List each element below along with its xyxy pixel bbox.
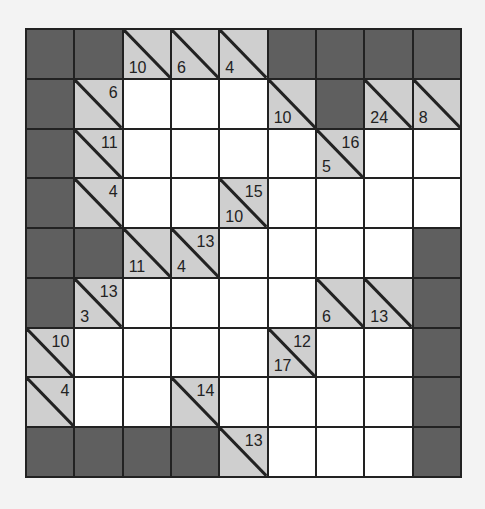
down-clue: 4 bbox=[225, 60, 234, 76]
down-clue: 5 bbox=[322, 159, 331, 175]
blocked-cell bbox=[27, 80, 73, 128]
down-clue: 24 bbox=[370, 110, 388, 126]
down-clue: 13 bbox=[370, 309, 388, 325]
entry-cell[interactable] bbox=[269, 428, 315, 476]
blocked-cell bbox=[414, 329, 460, 377]
entry-cell[interactable] bbox=[220, 378, 266, 426]
clue-cell: 10 bbox=[124, 30, 170, 78]
clue-cell: 313 bbox=[75, 279, 121, 327]
across-clue: 14 bbox=[197, 383, 215, 399]
entry-cell[interactable] bbox=[172, 130, 218, 178]
entry-cell[interactable] bbox=[269, 279, 315, 327]
blocked-cell bbox=[124, 428, 170, 476]
entry-cell[interactable] bbox=[75, 378, 121, 426]
down-clue: 4 bbox=[177, 259, 186, 275]
clue-cell: 10 bbox=[27, 329, 73, 377]
entry-cell[interactable] bbox=[220, 329, 266, 377]
blocked-cell bbox=[75, 30, 121, 78]
down-clue: 8 bbox=[419, 110, 428, 126]
down-clue: 11 bbox=[129, 259, 146, 275]
blocked-cell bbox=[172, 428, 218, 476]
entry-cell[interactable] bbox=[124, 279, 170, 327]
down-clue: 10 bbox=[129, 60, 147, 76]
entry-cell[interactable] bbox=[317, 229, 363, 277]
clue-cell: 10 bbox=[269, 80, 315, 128]
entry-cell[interactable] bbox=[365, 329, 411, 377]
entry-cell[interactable] bbox=[172, 279, 218, 327]
entry-cell[interactable] bbox=[365, 229, 411, 277]
entry-cell[interactable] bbox=[317, 428, 363, 476]
entry-cell[interactable] bbox=[124, 130, 170, 178]
across-clue: 4 bbox=[60, 383, 69, 399]
blocked-cell bbox=[269, 30, 315, 78]
clue-cell: 1712 bbox=[269, 329, 315, 377]
blocked-cell bbox=[27, 279, 73, 327]
clue-cell: 413 bbox=[172, 229, 218, 277]
entry-cell[interactable] bbox=[317, 378, 363, 426]
down-clue: 10 bbox=[274, 110, 292, 126]
clue-cell: 14 bbox=[172, 378, 218, 426]
clue-cell: 24 bbox=[365, 80, 411, 128]
entry-cell[interactable] bbox=[414, 179, 460, 227]
entry-cell[interactable] bbox=[317, 329, 363, 377]
entry-cell[interactable] bbox=[414, 130, 460, 178]
entry-cell[interactable] bbox=[220, 130, 266, 178]
clue-cell: 6 bbox=[75, 80, 121, 128]
blocked-cell bbox=[365, 30, 411, 78]
blocked-cell bbox=[75, 428, 121, 476]
clue-cell: 13 bbox=[220, 428, 266, 476]
entry-cell[interactable] bbox=[75, 329, 121, 377]
entry-cell[interactable] bbox=[269, 229, 315, 277]
blocked-cell bbox=[414, 378, 460, 426]
entry-cell[interactable] bbox=[365, 378, 411, 426]
clue-cell: 8 bbox=[414, 80, 460, 128]
clue-cell: 4 bbox=[27, 378, 73, 426]
across-clue: 12 bbox=[293, 334, 311, 350]
clue-cell: 4 bbox=[75, 179, 121, 227]
across-clue: 4 bbox=[109, 184, 118, 200]
across-clue: 10 bbox=[52, 334, 70, 350]
blocked-cell bbox=[414, 279, 460, 327]
entry-cell[interactable] bbox=[365, 428, 411, 476]
blocked-cell bbox=[27, 130, 73, 178]
across-clue: 13 bbox=[197, 234, 215, 250]
down-clue: 3 bbox=[80, 309, 89, 325]
entry-cell[interactable] bbox=[269, 130, 315, 178]
across-clue: 11 bbox=[101, 135, 118, 151]
entry-cell[interactable] bbox=[365, 130, 411, 178]
entry-cell[interactable] bbox=[365, 179, 411, 227]
blocked-cell bbox=[317, 80, 363, 128]
down-clue: 6 bbox=[322, 309, 331, 325]
blocked-cell bbox=[27, 428, 73, 476]
blocked-cell bbox=[75, 229, 121, 277]
across-clue: 6 bbox=[109, 85, 118, 101]
entry-cell[interactable] bbox=[220, 279, 266, 327]
entry-cell[interactable] bbox=[220, 229, 266, 277]
kakuro-board: 1064610248115164101511413313613101712414… bbox=[25, 28, 462, 478]
entry-cell[interactable] bbox=[124, 80, 170, 128]
clue-cell: 1015 bbox=[220, 179, 266, 227]
down-clue: 6 bbox=[177, 60, 186, 76]
across-clue: 13 bbox=[245, 433, 263, 449]
blocked-cell bbox=[414, 30, 460, 78]
entry-cell[interactable] bbox=[220, 80, 266, 128]
entry-cell[interactable] bbox=[172, 80, 218, 128]
clue-cell: 4 bbox=[220, 30, 266, 78]
blocked-cell bbox=[414, 428, 460, 476]
clue-cell: 11 bbox=[124, 229, 170, 277]
entry-cell[interactable] bbox=[124, 179, 170, 227]
blocked-cell bbox=[414, 229, 460, 277]
entry-cell[interactable] bbox=[269, 378, 315, 426]
entry-cell[interactable] bbox=[124, 378, 170, 426]
clue-cell: 6 bbox=[317, 279, 363, 327]
entry-cell[interactable] bbox=[124, 329, 170, 377]
across-clue: 13 bbox=[100, 284, 118, 300]
entry-cell[interactable] bbox=[172, 329, 218, 377]
down-clue: 17 bbox=[274, 358, 292, 374]
entry-cell[interactable] bbox=[172, 179, 218, 227]
entry-cell[interactable] bbox=[317, 179, 363, 227]
clue-cell: 11 bbox=[75, 130, 121, 178]
entry-cell[interactable] bbox=[269, 179, 315, 227]
blocked-cell bbox=[317, 30, 363, 78]
blocked-cell bbox=[27, 229, 73, 277]
